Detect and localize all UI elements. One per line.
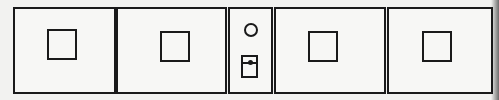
pocket-icon [241,55,258,78]
panel-5 [387,7,493,94]
edge-shadow [491,0,499,100]
panel-1 [13,7,116,94]
image-placeholder-icon [422,31,452,62]
panel-3-center-control [228,7,273,94]
panel-4 [274,7,386,94]
panel-2 [116,7,227,94]
image-placeholder-icon [160,31,190,62]
image-placeholder-icon [308,31,338,62]
pocket-dot [248,60,253,65]
image-placeholder-icon [47,29,77,60]
circle-icon [244,23,258,37]
